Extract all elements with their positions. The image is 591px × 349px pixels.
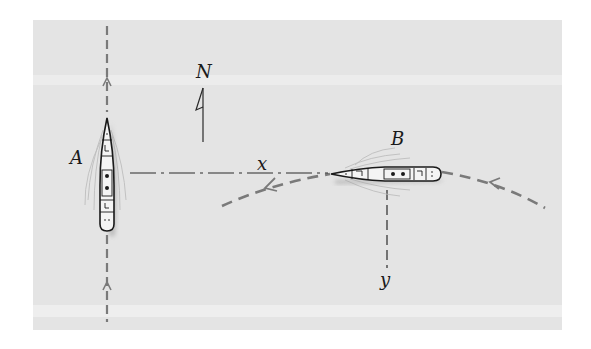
- x-label: x: [257, 153, 267, 174]
- ship-a-label: A: [68, 147, 83, 168]
- y-label: y: [379, 269, 391, 290]
- light-band-bottom: [33, 305, 562, 317]
- north-label: N: [195, 61, 213, 82]
- ships-diagram: x y N: [0, 0, 591, 349]
- light-band-top: [33, 75, 562, 85]
- ship-b-label: B: [390, 128, 404, 149]
